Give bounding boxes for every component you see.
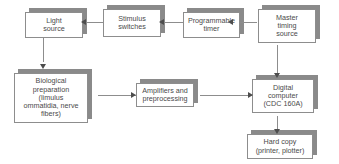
node-master-timing-source-label: Master timing source	[260, 14, 314, 39]
node-digital-computer[interactable]: Digital computer (CDC 160A)	[252, 79, 314, 113]
edge-switches-to-light-arrowhead	[81, 19, 86, 25]
node-digital-computer-label: Digital computer (CDC 160A)	[254, 84, 312, 109]
node-stimulus-switches[interactable]: Stimulus switches	[103, 9, 161, 37]
edge-light-to-biological-line	[43, 38, 44, 62]
node-stimulus-switches-label: Stimulus switches	[105, 15, 159, 31]
edge-timer-to-switches-arrowhead	[159, 19, 164, 25]
edge-light-to-biological-arrowhead	[40, 64, 46, 69]
edge-master-to-computer-arrowhead	[274, 73, 280, 78]
node-biological-preparation-label: Biological preparation (limulus ommatidi…	[16, 77, 86, 118]
edge-biological-to-amps-arrowhead	[131, 92, 136, 98]
node-light-source[interactable]: Light source	[25, 12, 83, 38]
node-hard-copy[interactable]: Hard copy (printer, plotter)	[247, 134, 313, 159]
node-hard-copy-label: Hard copy (printer, plotter)	[249, 138, 311, 154]
node-master-timing-source[interactable]: Master timing source	[258, 9, 316, 43]
edge-computer-to-hardcopy-arrowhead	[274, 129, 280, 134]
node-amplifiers-preprocessing-label: Amplifiers and preprocessing	[138, 87, 192, 103]
edge-switches-to-light-line	[85, 22, 105, 23]
edge-amps-to-computer-arrowhead	[248, 92, 253, 98]
edge-timer-to-switches-line	[163, 22, 185, 23]
node-biological-preparation[interactable]: Biological preparation (limulus ommatidi…	[14, 73, 88, 123]
node-light-source-label: Light source	[27, 17, 81, 33]
node-amplifiers-preprocessing[interactable]: Amplifiers and preprocessing	[136, 83, 194, 107]
node-programmable-timer[interactable]: Programmable timer	[183, 12, 240, 38]
diagram-canvas: Light source Stimulus switches Programma…	[0, 0, 339, 164]
edge-master-to-timer-arrowhead	[228, 19, 233, 25]
